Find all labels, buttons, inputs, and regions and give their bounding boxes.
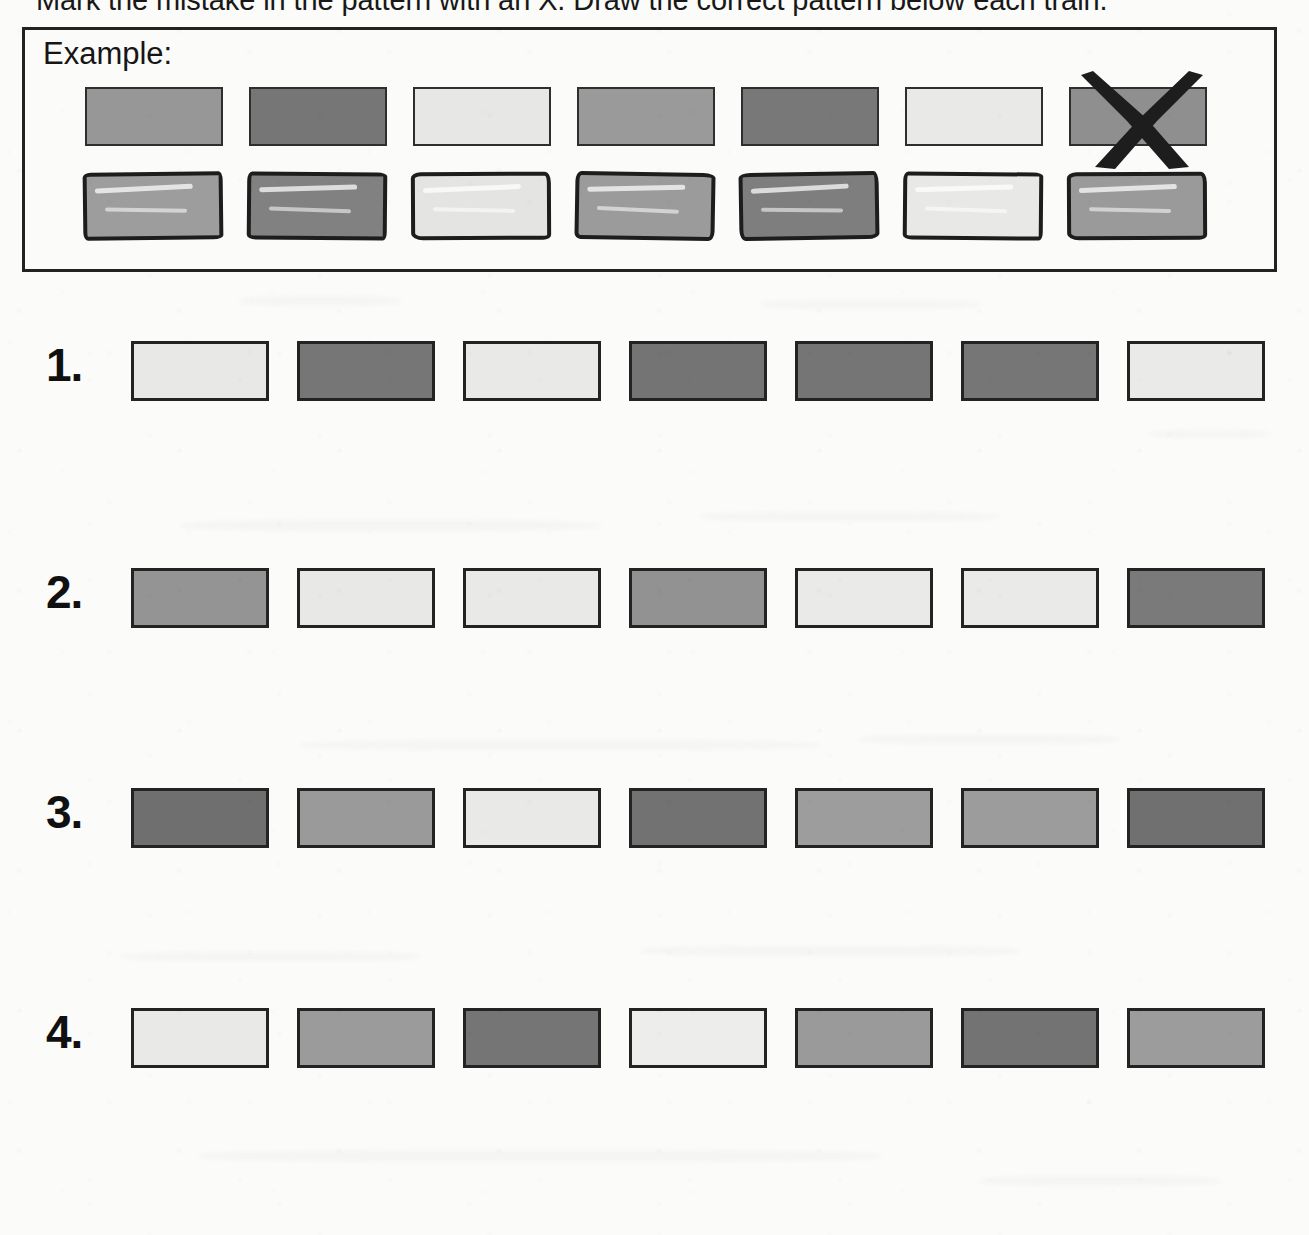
pattern-block[interactable] xyxy=(1127,1008,1265,1068)
pattern-block[interactable] xyxy=(1127,568,1265,628)
pattern-block[interactable] xyxy=(961,1008,1099,1068)
pattern-block[interactable] xyxy=(629,1008,767,1068)
example-drawn-block xyxy=(903,171,1044,240)
row-number-label: 3. xyxy=(46,785,82,839)
example-printed-block xyxy=(577,87,715,146)
example-printed-train xyxy=(85,87,1207,146)
mistake-x-mark xyxy=(1077,67,1207,171)
example-printed-block xyxy=(413,87,551,146)
pattern-block[interactable] xyxy=(961,341,1099,401)
problem-row-2: 2. xyxy=(0,568,1309,638)
pattern-block[interactable] xyxy=(463,341,601,401)
pattern-block[interactable] xyxy=(1127,788,1265,848)
pattern-block[interactable] xyxy=(131,1008,269,1068)
example-drawn-block xyxy=(411,172,551,241)
pattern-block[interactable] xyxy=(463,1008,601,1068)
pattern-block[interactable] xyxy=(463,788,601,848)
row-number-label: 1. xyxy=(46,338,82,392)
example-printed-block xyxy=(741,87,879,146)
example-printed-block xyxy=(1069,87,1207,146)
example-drawn-block xyxy=(1067,172,1207,241)
pattern-block[interactable] xyxy=(961,568,1099,628)
pattern-block[interactable] xyxy=(629,568,767,628)
pattern-block[interactable] xyxy=(629,341,767,401)
pattern-block[interactable] xyxy=(297,341,435,401)
pattern-block[interactable] xyxy=(463,568,601,628)
instruction-text: Mark the mistake in the pattern with an … xyxy=(36,0,1107,17)
pattern-block[interactable] xyxy=(131,341,269,401)
problem-row-3: 3. xyxy=(0,788,1309,858)
pattern-block[interactable] xyxy=(795,341,933,401)
row-number-label: 4. xyxy=(46,1005,82,1059)
example-label: Example: xyxy=(43,36,172,72)
pattern-block[interactable] xyxy=(629,788,767,848)
example-drawn-block xyxy=(738,171,879,241)
problem-row-4: 4. xyxy=(0,1008,1309,1078)
example-drawn-train xyxy=(83,172,1207,240)
pattern-block[interactable] xyxy=(297,1008,435,1068)
pattern-block[interactable] xyxy=(961,788,1099,848)
example-printed-block xyxy=(85,87,223,146)
example-drawn-block xyxy=(83,171,224,241)
pattern-block[interactable] xyxy=(297,568,435,628)
problem-row-1: 1. xyxy=(0,341,1309,411)
pattern-train xyxy=(131,341,1265,401)
row-number-label: 2. xyxy=(46,565,82,619)
example-drawn-block xyxy=(247,171,388,240)
example-printed-block xyxy=(249,87,387,146)
pattern-block[interactable] xyxy=(1127,341,1265,401)
pattern-train xyxy=(131,788,1265,848)
pattern-block[interactable] xyxy=(131,788,269,848)
pattern-block[interactable] xyxy=(131,568,269,628)
pattern-train xyxy=(131,1008,1265,1068)
example-printed-block xyxy=(905,87,1043,146)
pattern-block[interactable] xyxy=(795,568,933,628)
example-box: Example: xyxy=(22,27,1277,272)
pattern-block[interactable] xyxy=(297,788,435,848)
pattern-train xyxy=(131,568,1265,628)
pattern-block[interactable] xyxy=(795,1008,933,1068)
example-drawn-block xyxy=(574,171,715,241)
pattern-block[interactable] xyxy=(795,788,933,848)
